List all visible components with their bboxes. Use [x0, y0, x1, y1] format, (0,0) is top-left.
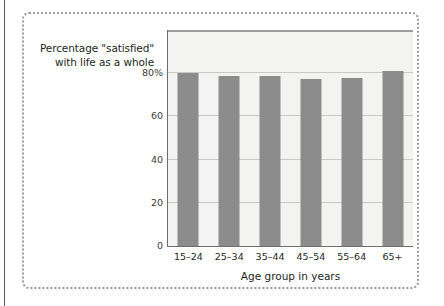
chart-plot: 020406080% 15–2425–3435–4445–5455–6465+: [168, 30, 413, 246]
bar[interactable]: [300, 79, 321, 246]
bar-slot: 35–44: [250, 30, 291, 246]
bar-slot: 55–64: [331, 30, 372, 246]
bars-group: 15–2425–3435–4445–5455–6465+: [168, 30, 413, 246]
x-axis-line: [167, 246, 413, 247]
x-tick-label: 15–24: [174, 251, 203, 262]
bar[interactable]: [178, 73, 199, 246]
y-axis-caption-line-1: Percentage "satisfied": [20, 42, 154, 56]
x-tick-label: 45–54: [296, 251, 325, 262]
x-tick-label: 25–34: [215, 251, 244, 262]
y-tick-label-40: 40: [151, 153, 163, 164]
bar-slot: 45–54: [291, 30, 332, 246]
y-tick-label-20: 20: [151, 196, 163, 207]
y-axis-caption: Percentage "satisfied" with life as a wh…: [20, 42, 154, 69]
y-tick-label-80: 80%: [142, 67, 163, 78]
x-tick-label: 35–44: [256, 251, 285, 262]
bar[interactable]: [260, 76, 281, 246]
page-margin-rule: [4, 0, 5, 306]
y-axis-caption-line-2: with life as a whole: [20, 56, 154, 70]
x-axis-title: Age group in years: [168, 270, 413, 282]
bar[interactable]: [341, 78, 362, 246]
bar[interactable]: [219, 76, 240, 246]
bar[interactable]: [382, 71, 403, 246]
bar-slot: 15–24: [168, 30, 209, 246]
y-tick-label-0: 0: [157, 240, 163, 251]
bar-slot: 25–34: [209, 30, 250, 246]
x-tick-label: 55–64: [337, 251, 366, 262]
x-tick-label: 65+: [383, 251, 403, 262]
bar-slot: 65+: [372, 30, 413, 246]
y-tick-label-60: 60: [151, 110, 163, 121]
